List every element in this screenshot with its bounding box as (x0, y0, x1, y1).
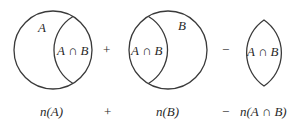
region-label-a: A (37, 20, 46, 35)
caption-plus: + (104, 104, 111, 119)
region-label-b: B (178, 18, 186, 33)
plus-operator: + (103, 42, 110, 57)
venn-identity-diagram: A A ∩ B + B A ∩ B − A ∩ B n(A) + n(B) − … (0, 0, 297, 129)
panel-set-a: A A ∩ B (14, 11, 92, 89)
caption-n-b: n(B) (156, 104, 179, 119)
intersection-label: A ∩ B (56, 43, 89, 58)
panel-intersection: A ∩ B (246, 20, 281, 86)
intersection-label: A ∩ B (246, 44, 279, 59)
panel-set-b: B A ∩ B (129, 11, 207, 89)
caption-n-a: n(A) (40, 104, 63, 119)
intersection-label: A ∩ B (130, 43, 163, 58)
caption-n-a-intersect-b: n(A ∩ B) (240, 104, 287, 119)
minus-operator: − (222, 42, 229, 57)
caption-minus: − (222, 104, 229, 119)
